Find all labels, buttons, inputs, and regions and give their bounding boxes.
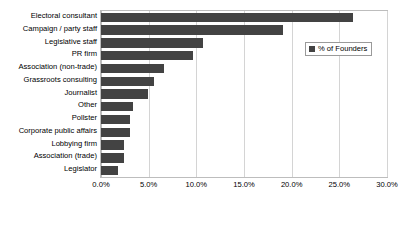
category-label: PR firm xyxy=(72,48,97,61)
legend-label: % of Founders xyxy=(318,44,367,53)
category-label: Legislator xyxy=(64,163,97,176)
x-tick-label: 30.0% xyxy=(376,180,398,189)
bar xyxy=(101,128,130,137)
category-label: Pollster xyxy=(72,112,97,125)
bar-chart: Electoral consultantCampaign / party sta… xyxy=(0,0,406,228)
x-tick-label: 15.0% xyxy=(233,180,255,189)
bar xyxy=(101,89,148,98)
bar xyxy=(101,153,124,162)
category-label: Association (trade) xyxy=(34,150,97,163)
plot-area xyxy=(100,10,388,178)
category-label: Campaign / party staff xyxy=(23,23,97,36)
category-label: Journalist xyxy=(65,87,98,100)
category-label: Legislative staff xyxy=(45,36,97,49)
category-label: Grassroots consulting xyxy=(24,74,97,87)
x-tick-label: 0.0% xyxy=(92,180,109,189)
bar xyxy=(101,77,154,86)
legend-swatch-icon xyxy=(309,46,315,52)
category-axis-labels: Electoral consultantCampaign / party sta… xyxy=(0,10,97,178)
x-tick-label: 20.0% xyxy=(281,180,303,189)
bar xyxy=(101,64,164,73)
category-label: Corporate public affairs xyxy=(19,125,97,138)
category-label: Electoral consultant xyxy=(31,10,97,23)
x-tick-label: 25.0% xyxy=(329,180,351,189)
bar-series xyxy=(101,11,387,177)
category-label: Lobbying firm xyxy=(51,138,97,151)
bar xyxy=(101,25,283,34)
bar xyxy=(101,13,353,22)
gridline xyxy=(387,11,388,177)
bar xyxy=(101,102,133,111)
bar xyxy=(101,115,130,124)
category-label: Other xyxy=(78,99,97,112)
bar xyxy=(101,38,203,47)
bar xyxy=(101,51,193,60)
x-tick-label: 5.0% xyxy=(140,180,157,189)
value-axis-labels: 0.0%5.0%10.0%15.0%20.0%25.0%30.0% xyxy=(0,180,406,194)
x-tick-label: 10.0% xyxy=(186,180,208,189)
category-label: Association (non-trade) xyxy=(18,61,97,74)
chart-legend: % of Founders xyxy=(305,42,372,56)
bar xyxy=(101,140,124,149)
bar xyxy=(101,166,118,175)
